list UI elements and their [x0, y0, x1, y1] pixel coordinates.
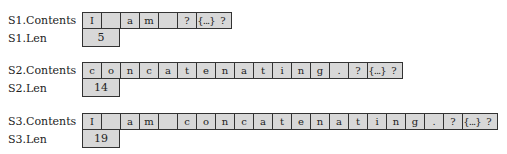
char-cell: . — [425, 114, 444, 129]
s3-contents-label: S3.Contents — [8, 113, 76, 130]
trailing-cell: ? — [386, 63, 402, 78]
char-cell: a — [330, 114, 349, 129]
char-cell: ? — [349, 63, 368, 78]
trailing-cell: ? — [481, 114, 497, 129]
char-cell: t — [349, 114, 368, 129]
char-cell: ? — [444, 114, 463, 129]
char-cell: t — [254, 63, 273, 78]
char-cell: e — [197, 63, 216, 78]
char-cell: . — [330, 63, 349, 78]
char-cell: i — [273, 63, 292, 78]
char-cell: o — [197, 114, 216, 129]
char-cell — [102, 13, 121, 28]
s3-contents-array: I am concatenating.?{...}? — [82, 113, 498, 130]
char-cell: g — [406, 114, 425, 129]
s2-len-value: 14 — [82, 79, 120, 97]
char-cell: c — [140, 63, 159, 78]
char-cell — [159, 114, 178, 129]
char-cell: e — [292, 114, 311, 129]
char-cell: a — [121, 114, 140, 129]
s3-len-label: S3.Len — [8, 131, 47, 148]
ellipsis-cell: {...} — [463, 114, 481, 129]
char-cell: a — [254, 114, 273, 129]
char-cell: I — [83, 13, 102, 28]
s3-len-value: 19 — [82, 130, 120, 148]
char-cell: c — [235, 114, 254, 129]
char-cell: n — [216, 63, 235, 78]
s2-contents-array: concatenating.?{...}? — [82, 62, 403, 79]
char-cell: n — [121, 63, 140, 78]
s1-contents-label: S1.Contents — [8, 12, 76, 29]
char-cell: i — [368, 114, 387, 129]
char-cell: g — [311, 63, 330, 78]
char-cell: n — [216, 114, 235, 129]
char-cell: n — [311, 114, 330, 129]
s1-len-value: 5 — [82, 29, 120, 47]
char-cell: a — [159, 63, 178, 78]
char-cell: m — [140, 13, 159, 28]
s2-len-label: S2.Len — [8, 80, 47, 97]
char-cell — [102, 114, 121, 129]
s2-contents-label: S2.Contents — [8, 62, 76, 79]
char-cell: ? — [178, 13, 197, 28]
char-cell: c — [178, 114, 197, 129]
s1-len-label: S1.Len — [8, 30, 47, 47]
char-cell: n — [387, 114, 406, 129]
char-cell: n — [292, 63, 311, 78]
char-cell: a — [121, 13, 140, 28]
char-cell: I — [83, 114, 102, 129]
char-cell: o — [102, 63, 121, 78]
s1-contents-array: I am ?{...}? — [82, 12, 232, 29]
ellipsis-cell: {...} — [197, 13, 215, 28]
char-cell — [159, 13, 178, 28]
char-cell: t — [273, 114, 292, 129]
char-cell: t — [178, 63, 197, 78]
char-cell: a — [235, 63, 254, 78]
trailing-cell: ? — [215, 13, 231, 28]
char-cell: m — [140, 114, 159, 129]
char-cell: c — [83, 63, 102, 78]
ellipsis-cell: {...} — [368, 63, 386, 78]
